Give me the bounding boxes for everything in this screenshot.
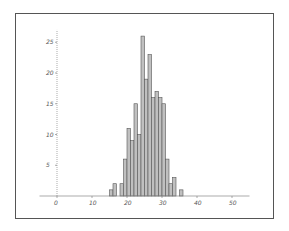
histogram-bar — [180, 190, 184, 196]
x-tick-label: 30 — [159, 199, 167, 206]
histogram-plot: 01020304050510152025 — [0, 0, 289, 231]
histogram-bar — [138, 135, 142, 197]
histogram-bar — [141, 36, 145, 196]
histogram-bar — [166, 159, 170, 196]
histogram-bars — [110, 36, 184, 196]
histogram-bar — [145, 79, 149, 196]
histogram-bar — [148, 55, 152, 196]
histogram-bar — [173, 178, 177, 196]
histogram-bar — [120, 184, 124, 196]
y-tick-label: 5 — [46, 161, 50, 168]
histogram-bar — [127, 128, 131, 196]
histogram-bar — [131, 141, 135, 196]
x-tick-label: 20 — [124, 199, 132, 206]
x-tick-label: 40 — [194, 199, 202, 206]
histogram-bar — [113, 184, 117, 196]
y-tick-label: 25 — [46, 38, 54, 45]
histogram-bar — [162, 104, 166, 196]
x-tick-label: 0 — [54, 199, 58, 206]
x-tick-label: 10 — [89, 199, 97, 206]
histogram-bar — [110, 190, 114, 196]
histogram-bar — [155, 91, 159, 196]
histogram-bar — [152, 98, 156, 196]
histogram-bar — [134, 104, 138, 196]
y-tick-label: 15 — [46, 100, 54, 107]
histogram-bar — [169, 184, 173, 196]
y-tick-label: 10 — [46, 131, 54, 138]
x-tick-label: 50 — [229, 199, 237, 206]
histogram-bar — [124, 159, 128, 196]
y-tick-label: 20 — [46, 69, 54, 76]
histogram-bar — [159, 98, 163, 196]
